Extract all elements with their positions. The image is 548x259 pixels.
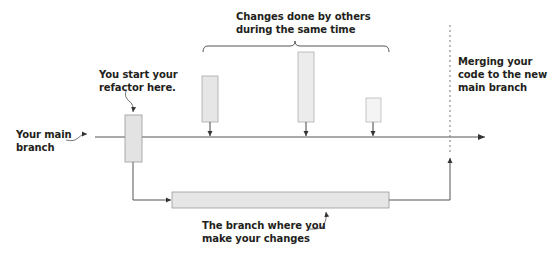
others-changes-label: Changes done by others during the same t… bbox=[236, 10, 371, 36]
start-refactor-label-line-2: refactor here. bbox=[99, 81, 178, 94]
main-branch-label-line-1: Your main bbox=[16, 128, 72, 141]
branch-off-line bbox=[133, 162, 171, 200]
merging-label-line-1: Merging your bbox=[458, 55, 547, 68]
your-branch-label-line-2: make your changes bbox=[202, 232, 326, 245]
other-change-box-2 bbox=[298, 52, 314, 122]
your-branch-box bbox=[172, 192, 389, 208]
refactor-callout bbox=[125, 91, 133, 112]
other-change-box-3 bbox=[366, 98, 381, 122]
main-branch-label: Your main branch bbox=[16, 128, 72, 154]
merging-label-line-3: main branch bbox=[458, 81, 547, 94]
other-change-box-1 bbox=[202, 76, 218, 122]
start-refactor-label-line-1: You start your bbox=[99, 68, 178, 81]
main-branch-label-line-2: branch bbox=[16, 141, 72, 154]
your-branch-label: The branch where you make your changes bbox=[202, 219, 326, 245]
your-branch-label-line-1: The branch where you bbox=[202, 219, 326, 232]
others-bracket bbox=[203, 41, 389, 52]
merging-label-line-2: code to the new bbox=[458, 68, 547, 81]
others-changes-label-line-2: during the same time bbox=[236, 23, 371, 36]
start-refactor-label: You start your refactor here. bbox=[99, 68, 178, 94]
refactor-start-box bbox=[125, 115, 142, 162]
merging-label: Merging your code to the new main branch bbox=[458, 55, 547, 94]
merge-line bbox=[389, 158, 450, 200]
others-changes-label-line-1: Changes done by others bbox=[236, 10, 371, 23]
